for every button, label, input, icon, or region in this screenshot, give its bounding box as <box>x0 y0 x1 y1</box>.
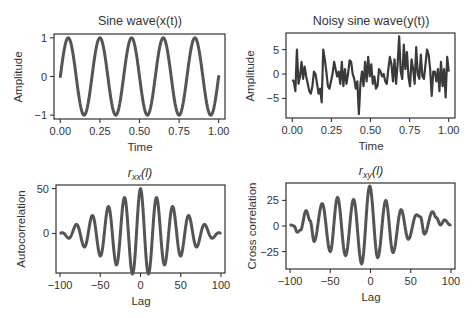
y-axis-label: Cross correlation <box>246 183 258 270</box>
x-tick-label: 0.00 <box>282 124 303 136</box>
y-ticks: −101 <box>34 32 54 121</box>
y-ticks: 050 <box>37 183 56 240</box>
y-tick-label: 25 <box>267 194 279 206</box>
sine-wave-panel: Sine wave(x(t)) 0.000.250.500.751.00 −10… <box>12 14 229 153</box>
y-tick-label: 5 <box>273 44 279 56</box>
chart-title: rxx(l) <box>128 166 152 182</box>
x-tick-label: 0 <box>367 275 373 287</box>
title-subscript: xy <box>362 170 373 180</box>
x-ticks: −100−50050100 <box>278 269 461 287</box>
y-axis-label: Amplitude <box>244 50 256 101</box>
x-tick-label: 0.50 <box>360 124 381 136</box>
x-tick-label: 0.50 <box>129 125 150 137</box>
autocorrelation-series-line <box>61 189 220 274</box>
title-tail: (l) <box>372 164 383 178</box>
x-tick-label: 50 <box>405 275 417 287</box>
x-tick-label: 1.00 <box>208 125 229 137</box>
x-axis-label: Lag <box>361 291 380 303</box>
x-ticks: 0.000.250.500.751.00 <box>282 118 460 136</box>
x-tick-label: −100 <box>48 279 73 291</box>
title-tail: (l) <box>141 166 152 180</box>
y-tick-label: 0 <box>43 227 49 239</box>
x-tick-label: 0 <box>137 279 143 291</box>
y-tick-label: 50 <box>37 183 49 195</box>
x-ticks: −100−50050100 <box>48 273 231 291</box>
x-axis-label: Time <box>358 140 383 152</box>
x-tick-label: −100 <box>278 275 303 287</box>
y-tick-label: −25 <box>260 246 279 258</box>
y-tick-label: 0 <box>273 68 279 80</box>
x-tick-label: 0.00 <box>50 125 71 137</box>
x-tick-label: 50 <box>175 279 187 291</box>
sine-series-line <box>60 38 218 115</box>
noisy-sine-panel: Noisy sine wave(y(t)) 0.000.250.500.751.… <box>244 14 459 152</box>
x-tick-label: 100 <box>212 279 230 291</box>
x-tick-label: 1.00 <box>438 124 459 136</box>
chart-title: Noisy sine wave(y(t)) <box>313 14 430 28</box>
x-tick-label: 0.25 <box>89 125 110 137</box>
y-tick-label: −5 <box>266 92 279 104</box>
x-axis-label: Lag <box>131 295 150 307</box>
autocorrelation-panel: rxx(l) −100−50050100 050 Lag Autocorrela… <box>15 166 230 307</box>
chart-title: rxy(l) <box>359 164 383 180</box>
chart-title: Sine wave(x(t)) <box>98 14 182 28</box>
figure: Sine wave(x(t)) 0.000.250.500.751.00 −10… <box>0 0 472 318</box>
x-tick-label: 0.75 <box>399 124 420 136</box>
x-tick-label: −50 <box>91 279 110 291</box>
cross-correlation-series-line <box>291 186 450 264</box>
x-tick-label: −50 <box>321 275 340 287</box>
y-tick-label: 1 <box>41 32 47 44</box>
x-tick-label: 100 <box>442 275 460 287</box>
title-subscript: xx <box>131 172 142 182</box>
noisy-series-line <box>292 36 448 114</box>
x-axis-label: Time <box>127 141 152 153</box>
y-ticks: −505 <box>266 44 286 105</box>
y-tick-label: 0 <box>273 220 279 232</box>
x-ticks: 0.000.250.500.751.00 <box>50 119 230 137</box>
y-tick-label: 0 <box>41 71 47 83</box>
y-tick-label: −1 <box>34 109 47 121</box>
y-axis-label: Autocorrelation <box>15 190 27 267</box>
x-tick-label: 0.75 <box>168 125 189 137</box>
x-tick-label: 0.25 <box>321 124 342 136</box>
y-axis-label: Amplitude <box>12 51 24 102</box>
cross-correlation-panel: rxy(l) −100−50050100 −25025 Lag Cross co… <box>246 164 460 303</box>
plot-frame <box>56 185 225 273</box>
y-ticks: −25025 <box>260 194 286 257</box>
